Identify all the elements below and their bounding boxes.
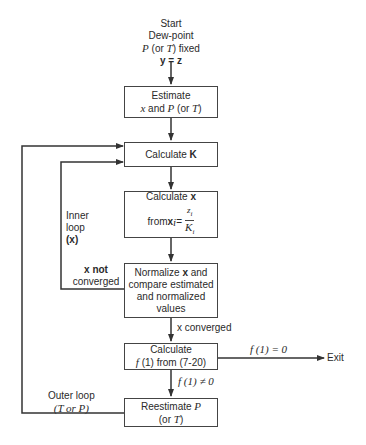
estimate-box: Estimate x and P (or T): [124, 86, 218, 118]
calculate-f-box: Calculate f (1) from (7-20): [124, 343, 218, 370]
f-equals-zero-label: f (1) = 0: [250, 343, 287, 355]
fixed-label: P (or T) fixed: [121, 42, 221, 55]
normalize-box: Normalize x and compare estimated and no…: [124, 263, 218, 318]
reestimate-box: Reestimate P (or T): [124, 398, 218, 427]
outer-loop-label: Outer loop (T or P): [48, 390, 95, 414]
calculate-k-box: Calculate K: [124, 142, 218, 167]
fraction: zi Ki: [185, 205, 194, 238]
x-not-converged-label: x not converged: [70, 264, 122, 288]
y-equals-z-label: y = z: [121, 55, 221, 67]
x-converged-label: x converged: [177, 322, 231, 334]
start-node: Start Dew-point P (or T) fixed y = z: [121, 18, 221, 67]
exit-label: Exit: [327, 352, 344, 364]
inner-loop-label: Inner loop (x): [66, 210, 89, 246]
calculate-x-box: Calculate x from xi = zi Ki: [124, 191, 218, 238]
start-label: Start: [121, 18, 221, 30]
x-formula: from xi = zi Ki: [148, 205, 195, 238]
dew-point-label: Dew-point: [121, 30, 221, 42]
f-not-zero-label: f (1) ≠ 0: [178, 375, 214, 387]
